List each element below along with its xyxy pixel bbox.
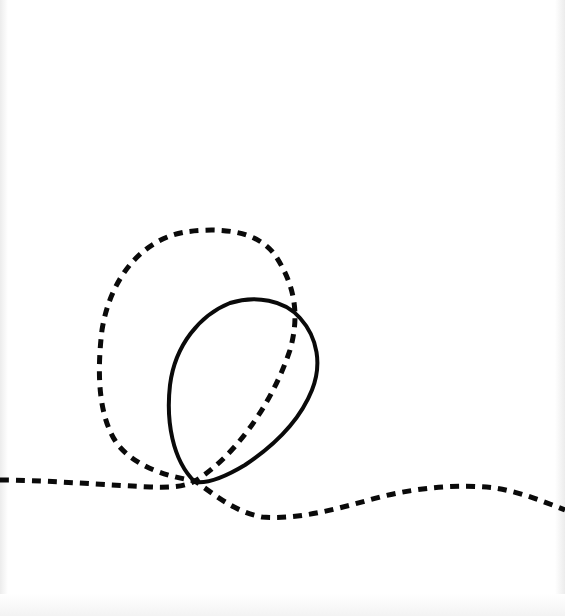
line-sketch [0,0,565,616]
drawing-canvas [0,0,565,616]
dashed-loop-curve [0,230,565,517]
